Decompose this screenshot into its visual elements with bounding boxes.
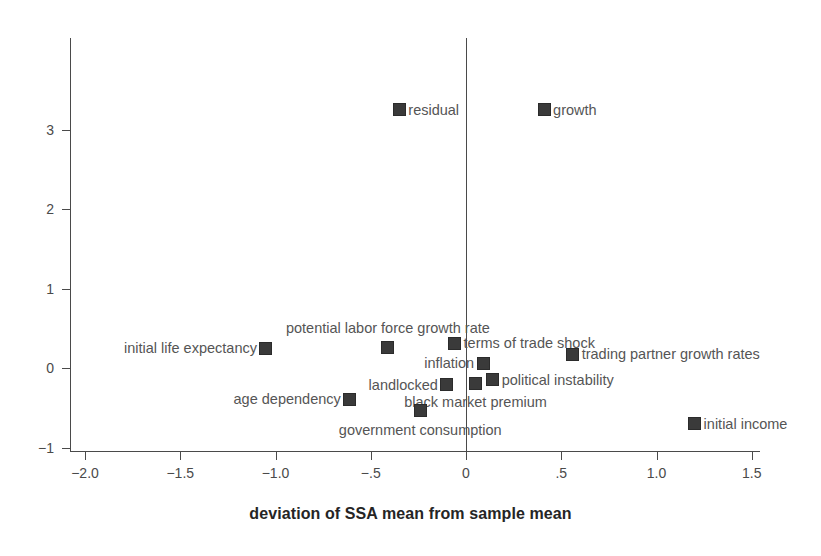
x-axis-tick-mark [657, 451, 658, 460]
x-axis-tick-label: 1.0 [627, 465, 687, 481]
x-axis-tick-mark [85, 451, 86, 460]
scatter-plot-area: 3210−1 −2.0−1.5−1.0−.50.51.01.5 residual… [0, 0, 821, 556]
y-axis-tick-mark [62, 209, 71, 210]
x-axis-tick-label: −.5 [341, 465, 401, 481]
data-point-label: residual [408, 102, 459, 117]
x-axis-tick-label: 1.5 [722, 465, 782, 481]
data-point-label: age dependency [234, 392, 341, 407]
x-axis-tick-label: −2.0 [55, 465, 115, 481]
x-axis-tick-mark [466, 451, 467, 460]
y-axis-tick-label: 1 [20, 282, 54, 296]
data-point-label: government consumption [339, 422, 502, 437]
y-axis-tick-mark [62, 130, 71, 131]
data-point-marker[interactable] [393, 103, 406, 116]
x-axis-tick-mark [752, 451, 753, 460]
data-point-marker[interactable] [469, 377, 482, 390]
figure-container: 3210−1 −2.0−1.5−1.0−.50.51.01.5 residual… [0, 0, 821, 556]
zero-reference-line [466, 38, 467, 451]
y-axis-tick-mark [62, 368, 71, 369]
data-point-marker[interactable] [448, 337, 461, 350]
y-axis-tick-label: 3 [20, 123, 54, 137]
data-point-label: landlocked [369, 377, 438, 392]
data-point-marker[interactable] [688, 417, 701, 430]
data-point-marker[interactable] [440, 378, 453, 391]
x-axis-tick-mark [561, 451, 562, 460]
y-axis-tick-mark [62, 448, 71, 449]
data-point-label: initial life expectancy [124, 341, 257, 356]
data-point-label: potential labor force growth rate [286, 321, 490, 336]
y-axis-tick-label: 0 [20, 361, 54, 375]
data-point-marker[interactable] [486, 373, 499, 386]
x-axis-tick-label: .5 [531, 465, 591, 481]
data-point-marker[interactable] [259, 342, 272, 355]
data-point-label: trading partner growth rates [582, 347, 760, 362]
data-point-label: political instability [502, 372, 614, 387]
x-axis-tick-label: 0 [436, 465, 496, 481]
data-point-label: growth [553, 102, 597, 117]
data-point-marker[interactable] [477, 357, 490, 370]
data-point-label: initial income [704, 416, 788, 431]
y-axis-tick-mark [62, 289, 71, 290]
x-axis-tick-label: −1.5 [150, 465, 210, 481]
data-point-marker[interactable] [343, 393, 356, 406]
x-axis-tick-mark [180, 451, 181, 460]
data-point-marker[interactable] [566, 348, 579, 361]
y-axis-tick-label: −1 [20, 441, 54, 455]
x-axis-title: deviation of SSA mean from sample mean [0, 505, 821, 523]
x-axis-tick-mark [371, 451, 372, 460]
data-point-label: inflation [424, 356, 474, 371]
y-axis-spine [70, 38, 71, 451]
x-axis-tick-mark [276, 451, 277, 460]
y-axis-tick-label: 2 [20, 202, 54, 216]
data-point-marker[interactable] [414, 404, 427, 417]
data-point-marker[interactable] [381, 341, 394, 354]
data-point-marker[interactable] [538, 103, 551, 116]
x-axis-tick-label: −1.0 [246, 465, 306, 481]
